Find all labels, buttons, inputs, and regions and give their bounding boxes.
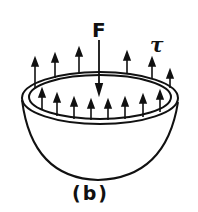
rim-inner (29, 75, 171, 119)
stress-label: τ (150, 33, 163, 57)
figure-caption: (b) (72, 182, 109, 204)
stress-arrows-front (39, 89, 163, 120)
rim-outer (22, 72, 178, 124)
force-label: F (92, 18, 106, 42)
force-arrow (96, 40, 102, 94)
